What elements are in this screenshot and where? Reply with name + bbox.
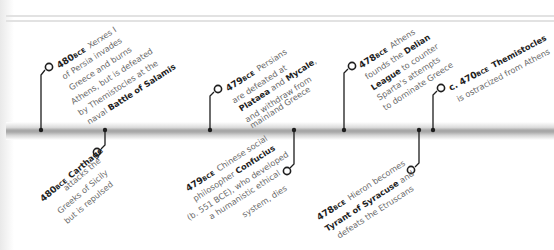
circle-node-icon [45,63,52,70]
connector-persians [210,92,214,130]
connector-carthage [101,130,105,149]
circle-node-icon [283,167,290,174]
marker-dot-icon [342,128,346,132]
marker-dot-icon [417,128,421,132]
circle-node-icon [437,84,444,91]
marker-dot-icon [208,128,212,132]
connector-hieron [415,130,419,167]
connector-xerxes [41,70,45,130]
marker-dot-icon [431,128,435,132]
connector-delian [344,69,348,130]
connector-confucius [290,130,294,168]
marker-dot-icon [292,128,296,132]
marker-dot-icon [39,128,43,132]
connector-themistocles [433,91,437,130]
circle-node-icon [348,62,355,69]
circle-node-icon [214,85,221,92]
marker-dot-icon [103,128,107,132]
